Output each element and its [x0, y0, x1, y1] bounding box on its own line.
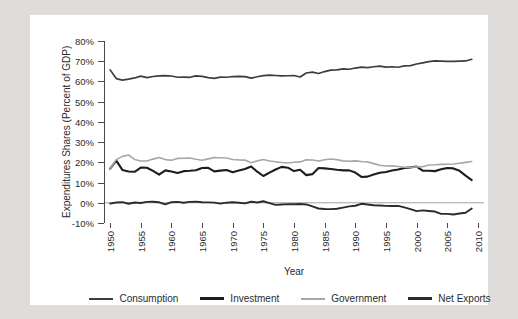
series-line-government: [110, 155, 472, 169]
x-tick-label: 2000: [412, 231, 423, 252]
y-tick-label: 0%: [80, 197, 94, 208]
x-tick: [294, 223, 295, 228]
chart-panel: Expenditures Shares (Percent of GDP) 80%…: [30, 15, 488, 305]
x-tick-label: 1995: [381, 231, 392, 252]
y-tick: 0%: [98, 203, 104, 204]
x-tick: [355, 223, 356, 228]
y-tick-label: 10%: [75, 177, 94, 188]
legend-item-investment[interactable]: Investment: [200, 293, 279, 304]
y-axis-line: [104, 41, 105, 223]
plot-area: 80%70%60%50%40%30%20%10%0%-10% 195019551…: [104, 41, 484, 223]
y-tick: 20%: [98, 162, 104, 163]
y-axis-title: Expenditures Shares (Percent of GDP): [61, 41, 72, 223]
y-tick-label: 50%: [75, 96, 94, 107]
y-tick-label: 20%: [75, 157, 94, 168]
legend-label: Government: [331, 293, 386, 304]
x-tick-label: 1975: [258, 231, 269, 252]
x-tick-label: 1990: [350, 231, 361, 252]
x-tick-label: 1955: [136, 231, 147, 252]
legend-swatch-icon: [301, 298, 325, 300]
x-tick-label: 1950: [105, 231, 116, 252]
legend-label: Consumption: [119, 293, 178, 304]
y-tick: 60%: [98, 81, 104, 82]
legend-item-government[interactable]: Government: [301, 293, 386, 304]
y-tick: 70%: [98, 61, 104, 62]
x-tick: [325, 223, 326, 228]
y-tick-label: 80%: [75, 36, 94, 47]
x-tick: [202, 223, 203, 228]
x-tick-label: 1960: [166, 231, 177, 252]
legend-swatch-icon: [200, 297, 224, 300]
series-line-investment: [110, 161, 472, 180]
x-tick: [386, 223, 387, 228]
x-tick: [447, 223, 448, 228]
x-tick: [478, 223, 479, 228]
legend-item-consumption[interactable]: Consumption: [89, 293, 178, 304]
y-tick-label: 40%: [75, 116, 94, 127]
x-tick: [141, 223, 142, 228]
y-tick-label: 70%: [75, 56, 94, 67]
x-tick-label: 1970: [228, 231, 239, 252]
x-tick: [233, 223, 234, 228]
y-tick: 40%: [98, 122, 104, 123]
x-tick-label: 1985: [320, 231, 331, 252]
series-line-consumption: [110, 59, 472, 80]
y-axis-ticks: 80%70%60%50%40%30%20%10%0%-10%: [98, 41, 104, 223]
legend-label: Investment: [230, 293, 279, 304]
series-line-net-exports: [110, 201, 472, 214]
y-tick: 80%: [98, 41, 104, 42]
x-tick-label: 2010: [473, 231, 484, 252]
x-tick-label: 2005: [442, 231, 453, 252]
chart-legend: ConsumptionInvestmentGovernmentNet Expor…: [70, 293, 510, 304]
y-tick-label: 30%: [75, 137, 94, 148]
x-tick-label: 1965: [197, 231, 208, 252]
x-tick: [110, 223, 111, 228]
x-tick: [263, 223, 264, 228]
y-tick: 10%: [98, 183, 104, 184]
legend-swatch-icon: [89, 298, 113, 300]
x-tick: [171, 223, 172, 228]
legend-label: Net Exports: [438, 293, 490, 304]
data-series-svg: [104, 41, 484, 223]
y-tick-label: 60%: [75, 76, 94, 87]
x-tick-label: 1980: [289, 231, 300, 252]
y-tick: 50%: [98, 102, 104, 103]
x-tick: [417, 223, 418, 228]
y-tick: 30%: [98, 142, 104, 143]
legend-item-net-exports[interactable]: Net Exports: [408, 293, 490, 304]
legend-swatch-icon: [408, 297, 432, 300]
y-tick-label: -10%: [72, 218, 94, 229]
figure-frame: Expenditures Shares (Percent of GDP) 80%…: [0, 0, 518, 319]
x-axis-title: Year: [104, 266, 484, 277]
